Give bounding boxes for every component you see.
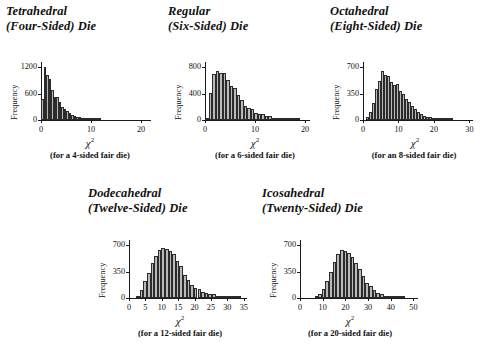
y-tick-label: 700 (274, 240, 296, 249)
panel-icosahedral: Icosahedral(Twenty-Sided) DieFrequency03… (0, 0, 487, 356)
panel-title-line2: (Twenty-Sided) Die (262, 201, 363, 216)
histogram-bars-icosahedral (300, 240, 418, 298)
chi-exponent: 2 (351, 314, 355, 322)
x-tick-label: 50 (398, 303, 428, 312)
chi-square-histogram-figure: Tetrahedral(Four-Sided) DieFrequency0600… (0, 0, 487, 356)
x-tick-mark (323, 298, 324, 301)
y-tick-label: 350 (274, 267, 296, 276)
x-tick-mark (391, 298, 392, 301)
histogram-bar (402, 296, 406, 298)
x-tick-mark (300, 298, 301, 301)
panel-title-icosahedral: Icosahedral(Twenty-Sided) Die (262, 186, 363, 215)
x-tick-mark (413, 298, 414, 301)
panel-title-line1: Icosahedral (262, 186, 363, 201)
x-tick-mark (345, 298, 346, 301)
y-tick-label: 0 (274, 293, 296, 302)
panel-caption-icosahedral: (for a 20-sided fair die) (277, 328, 423, 338)
x-axis-caption: χ2 (280, 314, 420, 327)
x-tick-mark (368, 298, 369, 301)
x-axis-line (300, 298, 418, 299)
